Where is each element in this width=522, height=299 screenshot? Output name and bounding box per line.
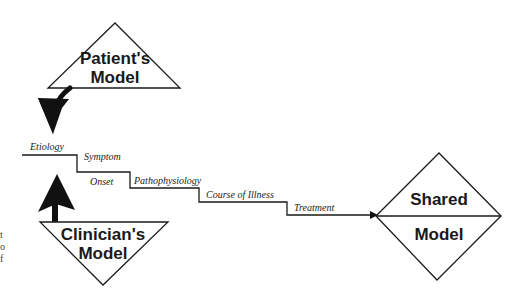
clinician-model-label-line2: Model [78, 244, 127, 263]
diagram-canvas: Patient's Model Etiology Symptom Onset P… [0, 0, 522, 299]
shared-model-label-line2: Model [414, 225, 463, 244]
step-pathophysiology: Pathophysiology [133, 175, 202, 186]
patient-model-node: Patient's Model [48, 23, 180, 88]
step-etiology: Etiology [29, 141, 64, 152]
margin-fragment: f [0, 253, 4, 264]
shared-model-label-line1: Shared [410, 190, 468, 209]
shared-model-node: Shared Model [376, 153, 501, 280]
patient-model-label-line1: Patient's [80, 49, 150, 68]
margin-fragment: o [0, 241, 5, 252]
step-onset: Onset [90, 176, 114, 187]
clinician-model-label-line1: Clinician's [61, 225, 145, 244]
up-arrow-icon [38, 174, 75, 224]
patient-model-label-line2: Model [90, 68, 139, 87]
staircase-timeline: Etiology Symptom Onset Pathophysiology C… [22, 141, 378, 219]
step-treatment: Treatment [294, 202, 334, 213]
margin-fragments: t o f [0, 229, 5, 264]
down-arrow-icon [38, 88, 70, 134]
step-course-of-illness: Course of Illness [206, 189, 274, 200]
margin-fragment: t [0, 229, 3, 240]
step-symptom: Symptom [84, 151, 121, 162]
clinician-model-node: Clinician's Model [40, 222, 168, 285]
